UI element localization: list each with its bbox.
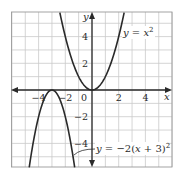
y-tick-label: 4 [82,31,88,42]
x-tick-labels: −4−2024 [32,92,149,103]
y-tick-label: −4 [74,138,88,149]
chart: −4−2024 −4−224 x y y = x2 y = −2(x + 3)2 [0,0,179,179]
eq2-tail: + 3) [141,143,166,154]
x-tick-label: −2 [58,92,72,103]
eq2-exponent: 2 [166,142,170,150]
eq1-equals: = [129,27,144,38]
eq1-exponent: 2 [149,26,153,34]
y-axis-down-arrow-icon [89,160,95,167]
y-tick-label: −2 [74,111,88,122]
x-axis-label: x [164,91,170,102]
y-tick-label: 2 [82,58,88,69]
x-tick-label: 0 [81,92,87,103]
eq2-equals: = −2( [102,143,135,154]
eq2-label: y = −2(x + 3)2 [95,142,170,154]
x-tick-label: 4 [142,92,148,103]
eq1-label: y = x2 [122,26,154,38]
y-axis-label: y [82,11,89,22]
x-tick-label: 2 [116,92,122,103]
y-axis-up-arrow-icon [89,12,95,19]
x-tick-label: −4 [32,92,46,103]
